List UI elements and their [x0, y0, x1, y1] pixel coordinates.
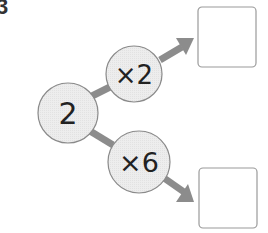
operator-bottom-label: ×6 [119, 147, 159, 178]
arrow-top-icon [160, 38, 194, 60]
arrow-bottom-icon [164, 178, 194, 202]
answer-box-top[interactable] [198, 7, 256, 67]
operator-node-bottom: ×6 [108, 131, 170, 193]
multiplication-diagram: 2 ×2 ×6 [0, 0, 268, 233]
connector-bottom [90, 131, 113, 145]
start-node: 2 [38, 83, 98, 143]
connector-top [90, 86, 112, 97]
answer-box-bottom[interactable] [199, 168, 257, 228]
operator-node-top: ×2 [106, 46, 162, 102]
start-value: 2 [58, 96, 77, 131]
operator-top-label: ×2 [115, 60, 153, 90]
